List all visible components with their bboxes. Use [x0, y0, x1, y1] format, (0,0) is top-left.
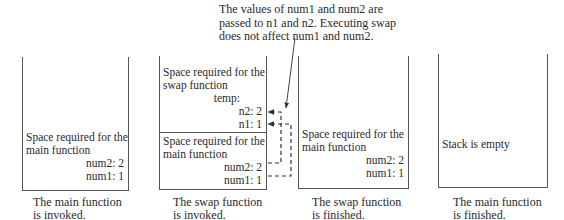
frame-empty: Stack is empty	[439, 138, 547, 151]
caption-line-2: is finished.	[453, 209, 542, 220]
var-num2: num2: 2	[299, 154, 408, 167]
caption-line-2: is invoked.	[33, 209, 122, 220]
stack-swap-invoked: Space required for the swap function tem…	[159, 56, 267, 190]
frame-title: swap function	[160, 79, 266, 92]
caption-line-1: The swap function	[173, 196, 262, 209]
caption-line-1: The main function	[453, 196, 542, 209]
annotation-line-3: does not affect num1 and num2.	[219, 30, 399, 44]
var-num1: num1: 1	[160, 174, 266, 187]
frame-title: main function	[23, 144, 128, 157]
frame-title: Space required for the	[299, 128, 408, 141]
var-n1: n1: 1	[160, 118, 266, 131]
caption-line-2: is finished.	[312, 209, 401, 220]
frame-title: Space required for the	[160, 66, 266, 79]
var-num2: num2: 2	[23, 157, 128, 170]
stack-main-finished: Stack is empty	[438, 54, 548, 188]
frame-swap: Space required for the swap function tem…	[160, 66, 266, 131]
annotation-text: The values of num1 and num2 are passed t…	[219, 3, 399, 44]
annotation-line-2: passed to n1 and n2. Executing swap	[219, 17, 399, 31]
frame-title: Space required for the	[23, 131, 128, 144]
frame-divider	[160, 132, 266, 133]
caption-main-invoked: The main function is invoked.	[33, 196, 122, 219]
frame-title: Space required for the	[160, 135, 266, 148]
frame-title: main function	[299, 141, 408, 154]
var-num1: num1: 1	[23, 170, 128, 183]
caption-line-1: The swap function	[312, 196, 401, 209]
var-num1: num1: 1	[299, 167, 408, 180]
caption-line-2: is invoked.	[173, 209, 262, 220]
caption-swap-finished: The swap function is finished.	[312, 196, 401, 219]
leader-line	[286, 38, 295, 108]
stack-main-invoked: Space required for the main function num…	[22, 57, 129, 191]
stack-swap-finished: Space required for the main function num…	[298, 56, 409, 189]
arrow-num1-to-n1	[268, 124, 291, 176]
stack-empty-label: Stack is empty	[439, 138, 547, 151]
frame-main: Space required for the main function num…	[23, 131, 128, 183]
frame-title: main function	[160, 148, 266, 161]
caption-swap-invoked: The swap function is invoked.	[173, 196, 262, 219]
arrow-num2-to-n2	[268, 112, 281, 163]
frame-main: Space required for the main function num…	[299, 128, 408, 180]
caption-line-1: The main function	[33, 196, 122, 209]
var-n2: n2: 2	[160, 105, 266, 118]
var-num2: num2: 2	[160, 161, 266, 174]
frame-main: Space required for the main function num…	[160, 135, 266, 187]
var-temp: temp:	[160, 92, 266, 105]
annotation-line-1: The values of num1 and num2 are	[219, 3, 399, 17]
caption-main-finished: The main function is finished.	[453, 196, 542, 219]
